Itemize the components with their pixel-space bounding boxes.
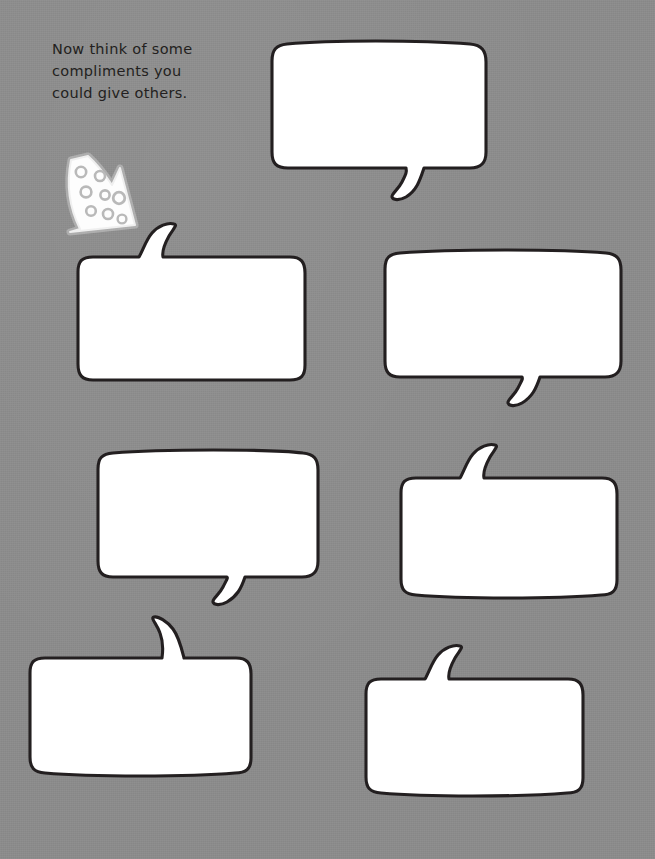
worksheet-page: Now think of some compliments you could … [0,0,655,859]
page-title: Now think of some compliments you could … [52,38,232,104]
polka-dot-arrow-icon [69,156,135,232]
arrow-group [0,0,655,859]
